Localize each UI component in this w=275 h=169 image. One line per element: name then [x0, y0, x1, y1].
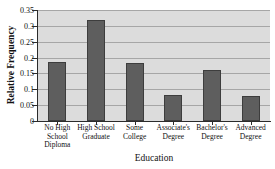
bar[interactable]: [203, 70, 221, 121]
y-tick-mark: [32, 89, 37, 90]
bar[interactable]: [48, 62, 66, 121]
x-axis-tick-labels: No High School DiplomaHigh School Gradua…: [38, 124, 270, 152]
x-tick-mark: [96, 122, 97, 125]
x-axis-title: Education: [38, 153, 270, 163]
y-tick-mark: [32, 10, 37, 11]
y-tick-mark: [32, 42, 37, 43]
y-tick-mark: [32, 58, 37, 59]
x-tick-label: Advanced Degree: [228, 124, 273, 141]
y-axis-line: [37, 10, 38, 122]
plot-area: [38, 10, 270, 121]
x-tick-mark: [251, 122, 252, 125]
bar[interactable]: [87, 20, 105, 121]
bar-chart: Relative Frequency 00.050.10.150.20.250.…: [0, 0, 275, 169]
y-tick-mark: [32, 121, 37, 122]
y-tick-mark: [32, 26, 37, 27]
x-tick-mark: [173, 122, 174, 125]
y-tick-mark: [32, 73, 37, 74]
x-tick-mark: [135, 122, 136, 125]
bar[interactable]: [126, 63, 144, 121]
x-tick-mark: [212, 122, 213, 125]
y-tick-mark: [32, 105, 37, 106]
bar-series: [38, 10, 270, 121]
bar[interactable]: [164, 95, 182, 121]
x-tick-mark: [57, 122, 58, 125]
bar[interactable]: [242, 96, 260, 121]
